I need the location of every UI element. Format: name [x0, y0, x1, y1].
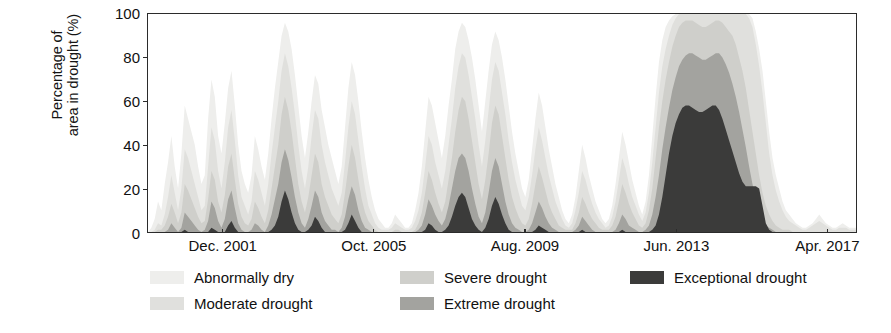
x-tick-mark: [676, 229, 677, 233]
x-tick-mark: [373, 229, 374, 233]
legend-label: Abnormally dry: [194, 270, 294, 285]
y-tick-label: 100: [100, 6, 140, 21]
legend-swatch-icon: [150, 297, 184, 310]
x-tick-label: Jun. 2013: [643, 238, 709, 253]
legend-swatch-icon: [400, 297, 434, 310]
y-tick-mark: [143, 145, 147, 146]
legend-item[interactable]: Exceptional drought: [630, 266, 807, 288]
legend-item[interactable]: Abnormally dry: [150, 266, 294, 288]
legend-item[interactable]: Moderate drought: [150, 292, 312, 314]
x-tick-mark: [524, 229, 525, 233]
legend-swatch-icon: [150, 271, 184, 284]
legend-swatch-icon: [630, 271, 664, 284]
drought-area-chart-figure: Percentage of area in drought (%) 020406…: [0, 0, 891, 333]
legend-item[interactable]: Severe drought: [400, 266, 547, 288]
y-axis-tick-labels: 020406080100: [88, 0, 140, 333]
y-axis-title: Percentage of area in drought (%): [45, 0, 85, 200]
y-tick-mark: [143, 57, 147, 58]
x-tick-mark: [222, 229, 223, 233]
legend-label: Severe drought: [444, 270, 547, 285]
x-tick-label: Aug. 2009: [491, 238, 559, 253]
legend-label: Exceptional drought: [674, 270, 807, 285]
legend-swatch-icon: [400, 271, 434, 284]
chart-legend: Abnormally dryModerate droughtSevere dro…: [150, 266, 880, 322]
y-tick-mark: [143, 189, 147, 190]
x-tick-mark: [827, 229, 828, 233]
y-axis-title-line-1: Percentage of: [49, 31, 65, 120]
x-tick-label: Apr. 2017: [795, 238, 859, 253]
legend-item[interactable]: Extreme drought: [400, 292, 555, 314]
y-tick-label: 80: [100, 50, 140, 65]
y-tick-label: 20: [100, 182, 140, 197]
legend-label: Extreme drought: [444, 296, 555, 311]
y-tick-mark: [143, 101, 147, 102]
x-tick-label: Dec. 2001: [189, 238, 257, 253]
y-tick-label: 60: [100, 94, 140, 109]
y-tick-label: 40: [100, 138, 140, 153]
plot-area: [147, 13, 857, 233]
x-axis-tick-labels: Dec. 2001Oct. 2005Aug. 2009Jun. 2013Apr.…: [0, 238, 891, 262]
stacked-area-plot: [148, 14, 856, 232]
y-axis-title-line-2: area in drought (%): [65, 14, 81, 136]
legend-label: Moderate drought: [194, 296, 312, 311]
x-tick-label: Oct. 2005: [341, 238, 406, 253]
